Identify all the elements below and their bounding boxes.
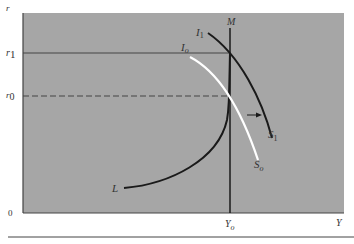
- origin-label: 0: [8, 208, 13, 218]
- yo-label: Yo: [225, 218, 235, 232]
- r1-label: r1: [6, 47, 15, 60]
- y-axis-label: r: [6, 3, 10, 13]
- m-label: M: [226, 16, 236, 27]
- x-axis-label: Y: [336, 217, 343, 228]
- r0-label: r0: [6, 90, 15, 102]
- islm-diagram: r 0 Y r1 r0 Yo M I1 Io S1 So L: [0, 0, 354, 244]
- l-label: L: [111, 182, 118, 194]
